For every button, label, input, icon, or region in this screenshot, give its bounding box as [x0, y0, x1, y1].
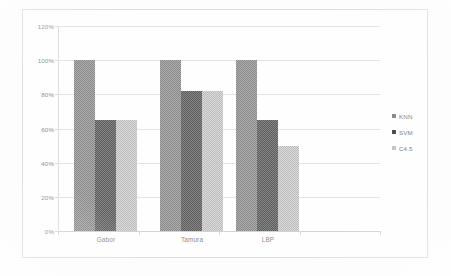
bar-group-lbp — [236, 26, 301, 231]
bar-lbp-c45 — [278, 146, 299, 231]
y-axis-tick-label: 40% — [20, 159, 54, 166]
chart-legend: KNN SVM C4.5 — [392, 108, 440, 156]
bar-tamura-svm — [181, 91, 202, 231]
y-axis-tick-label: 20% — [20, 193, 54, 200]
x-axis-tick-label: LBP — [262, 236, 275, 243]
x-axis-category-labels: Gabor Tamura LBP — [58, 236, 380, 250]
y-axis-tick-labels: 120% 100% 80% 60% 40% 20% 0% — [16, 26, 54, 231]
legend-item-svm: SVM — [392, 124, 440, 140]
bar-group-gabor — [74, 26, 139, 231]
legend-square-marker-icon — [392, 114, 396, 118]
y-axis-tick-label: 0% — [20, 228, 54, 235]
x-axis-tick-label: Tamura — [181, 236, 203, 243]
bar-lbp-knn — [236, 60, 257, 231]
bar-chart-figure: 120% 100% 80% 60% 40% 20% 0% — [0, 0, 451, 276]
x-axis-tick-label: Gabor — [97, 236, 116, 243]
bar-gabor-knn — [74, 60, 95, 231]
bar-lbp-svm — [257, 120, 278, 231]
y-axis-tick-label: 80% — [20, 91, 54, 98]
bar-tamura-knn — [160, 60, 181, 231]
bar-group-tamura — [160, 26, 225, 231]
legend-square-marker-icon — [392, 146, 396, 150]
legend-square-marker-icon — [392, 130, 396, 134]
y-axis-tick-label: 60% — [20, 125, 54, 132]
y-axis-tick-label: 100% — [20, 57, 54, 64]
bar-tamura-c45 — [202, 91, 223, 231]
bar-gabor-c45 — [116, 120, 137, 231]
legend-label: SVM — [399, 129, 413, 136]
bar-gabor-svm — [95, 120, 116, 231]
y-axis-tick-label: 120% — [20, 23, 54, 30]
plot-area — [58, 26, 380, 231]
legend-item-knn: KNN — [392, 108, 440, 124]
legend-item-c45: C4.5 — [392, 140, 440, 156]
legend-label: C4.5 — [399, 145, 413, 152]
legend-label: KNN — [399, 113, 413, 120]
